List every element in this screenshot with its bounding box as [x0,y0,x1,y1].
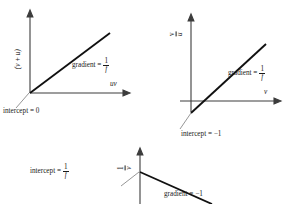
graph-3-intercept-label: intercept = 1 f [30,164,69,179]
figure-canvas: (v + u) uv gradient = 1 f intercept = 0 … [0,0,283,204]
graph-3-y-axis-arrow [137,148,143,155]
graph-3-intercept-fraction: 1 f [63,164,69,179]
graph-3-y-axis-denominator: v [125,165,133,171]
graph-3-y-axis-label: 1 v [118,165,133,172]
graph-3-intercept-leader [121,172,139,186]
graph-3-intercept-numerator: 1 [63,164,69,171]
graph-3-y-axis-numerator: 1 [118,165,125,171]
graph-3-intercept-denominator: f [63,171,69,179]
graph-3-gradient-label: gradient = −1 [164,191,203,198]
graph-3-intercept-prefix: intercept = [30,168,61,175]
graph-3-data-line [140,172,212,204]
graph-3-y-axis-fraction: 1 v [118,165,133,171]
